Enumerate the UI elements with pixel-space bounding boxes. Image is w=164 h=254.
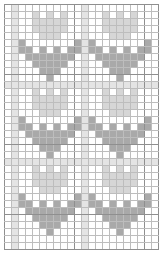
flower-head-stitch <box>46 25 53 32</box>
flower-head-stitch <box>102 25 109 32</box>
leaf-stitch <box>39 200 46 207</box>
leaf-stitch <box>25 46 32 53</box>
leaf-stitch <box>116 214 123 221</box>
flower-head-stitch <box>116 109 123 116</box>
grid-line-horizontal <box>4 81 159 82</box>
leaf-stitch <box>95 207 102 214</box>
leaf-stitch <box>144 39 151 46</box>
flower-head-stitch <box>46 165 53 172</box>
leaf-stitch <box>46 228 53 235</box>
leaf-stitch <box>46 151 53 158</box>
flower-head-stitch <box>46 172 53 179</box>
flower-head-stitch <box>60 18 67 25</box>
leaf-stitch <box>102 60 109 67</box>
flower-head-stitch <box>116 186 123 193</box>
leaf-stitch <box>116 144 123 151</box>
flower-head-stitch <box>109 109 116 116</box>
flower-head-stitch <box>102 95 109 102</box>
flower-head-stitch <box>39 18 46 25</box>
leaf-stitch <box>74 193 81 200</box>
leaf-stitch <box>95 46 102 53</box>
leaf-stitch <box>116 228 123 235</box>
leaf-stitch <box>32 60 39 67</box>
leaf-stitch <box>67 46 74 53</box>
leaf-stitch <box>32 214 39 221</box>
flower-head-stitch <box>46 179 53 186</box>
leaf-stitch <box>137 207 144 214</box>
leaf-stitch <box>46 214 53 221</box>
leaf-stitch <box>32 130 39 137</box>
flower-head-stitch <box>39 186 46 193</box>
grid-line-horizontal <box>4 18 159 19</box>
leaf-stitch <box>123 130 130 137</box>
leaf-stitch <box>109 221 116 228</box>
vertical-band <box>81 4 88 249</box>
leaf-stitch <box>53 46 60 53</box>
flower-head-stitch <box>46 32 53 39</box>
leaf-stitch <box>144 123 151 130</box>
leaf-stitch <box>46 60 53 67</box>
leaf-stitch <box>25 207 32 214</box>
grid-line-horizontal <box>4 88 159 89</box>
leaf-stitch <box>39 53 46 60</box>
grid-line-horizontal <box>4 109 159 110</box>
flower-head-stitch <box>32 165 39 172</box>
flower-head-stitch <box>53 95 60 102</box>
leaf-stitch <box>46 144 53 151</box>
flower-head-stitch <box>46 88 53 95</box>
leaf-stitch <box>116 130 123 137</box>
flower-head-stitch <box>116 165 123 172</box>
flower-head-stitch <box>130 172 137 179</box>
leaf-stitch <box>123 221 130 228</box>
flower-head-stitch <box>46 102 53 109</box>
flower-head-stitch <box>39 32 46 39</box>
flower-head-stitch <box>130 88 137 95</box>
grid-line-horizontal <box>4 46 159 47</box>
flower-head-stitch <box>109 102 116 109</box>
leaf-stitch <box>95 53 102 60</box>
flower-head-stitch <box>46 186 53 193</box>
grid-line-horizontal <box>4 4 159 5</box>
leaf-stitch <box>116 67 123 74</box>
leaf-stitch <box>60 214 67 221</box>
flower-head-stitch <box>116 32 123 39</box>
leaf-stitch <box>46 221 53 228</box>
leaf-stitch <box>109 53 116 60</box>
flower-head-stitch <box>130 165 137 172</box>
flower-head-stitch <box>46 11 53 18</box>
leaf-stitch <box>137 123 144 130</box>
leaf-stitch <box>46 74 53 81</box>
flower-head-stitch <box>116 18 123 25</box>
leaf-stitch <box>116 151 123 158</box>
leaf-stitch <box>74 123 81 130</box>
flower-head-stitch <box>123 95 130 102</box>
flower-head-stitch <box>109 32 116 39</box>
flower-head-stitch <box>130 25 137 32</box>
leaf-stitch <box>60 207 67 214</box>
leaf-stitch <box>137 53 144 60</box>
flower-head-stitch <box>116 95 123 102</box>
leaf-stitch <box>95 130 102 137</box>
leaf-stitch <box>123 67 130 74</box>
leaf-stitch <box>74 46 81 53</box>
grid-line-horizontal <box>4 144 159 145</box>
flower-head-stitch <box>123 18 130 25</box>
leaf-stitch <box>53 123 60 130</box>
flower-head-stitch <box>53 186 60 193</box>
flower-head-stitch <box>46 95 53 102</box>
leaf-stitch <box>25 200 32 207</box>
leaf-stitch <box>116 74 123 81</box>
leaf-stitch <box>46 207 53 214</box>
flower-head-stitch <box>109 25 116 32</box>
leaf-stitch <box>109 200 116 207</box>
leaf-stitch <box>116 53 123 60</box>
leaf-stitch <box>137 46 144 53</box>
leaf-stitch <box>130 60 137 67</box>
flower-head-stitch <box>60 88 67 95</box>
leaf-stitch <box>67 123 74 130</box>
flower-head-stitch <box>46 109 53 116</box>
leaf-stitch <box>53 221 60 228</box>
flower-head-stitch <box>60 25 67 32</box>
leaf-stitch <box>102 53 109 60</box>
leaf-stitch <box>88 123 95 130</box>
